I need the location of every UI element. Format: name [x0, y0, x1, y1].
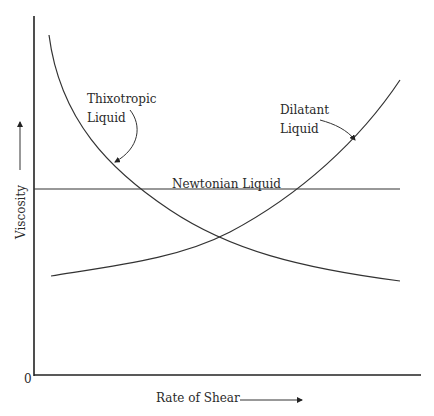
- x-axis-label: Rate of Shear: [156, 389, 240, 408]
- y-axis-label: Viscosity: [14, 177, 28, 247]
- thixotropic-label-line2: Liquid: [87, 109, 157, 128]
- thixotropic-label-line1: Thixotropic: [87, 90, 157, 109]
- dilatant-label-line1: Dilatant: [280, 101, 329, 120]
- newtonian-label: Newtonian Liquid: [172, 175, 281, 194]
- thixotropic-curve: [49, 35, 400, 281]
- dilatant-label-line2: Liquid: [280, 120, 329, 139]
- thixotropic-label: Thixotropic Liquid: [87, 90, 157, 128]
- origin-label: 0: [24, 370, 32, 389]
- chart-canvas: [0, 0, 434, 416]
- dilatant-label: Dilatant Liquid: [280, 101, 329, 139]
